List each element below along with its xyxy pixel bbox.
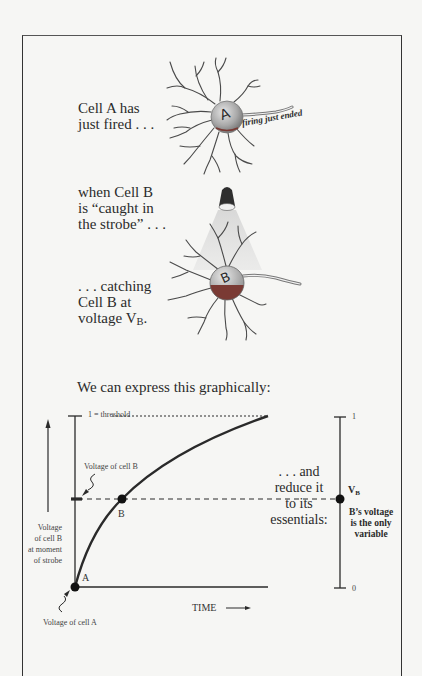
text-line: reduce it bbox=[268, 480, 330, 496]
text-line: to its bbox=[268, 496, 330, 512]
label-line: of cell B bbox=[22, 533, 62, 544]
voltage-curve bbox=[75, 416, 268, 587]
point-b bbox=[118, 495, 127, 504]
threshold-label: 1 = threshold bbox=[88, 410, 130, 419]
reduce-text: . . . and reduce it to its essentials: bbox=[268, 464, 330, 528]
caption-strobe: when Cell B is “caught in the strobe” . … bbox=[78, 184, 166, 232]
caption-line: voltage VB. bbox=[78, 310, 151, 330]
voltage-b-label: Voltage of cell B bbox=[84, 462, 138, 471]
caption-line: Cell A has bbox=[78, 100, 154, 116]
caption-text: voltage V bbox=[78, 310, 136, 326]
note-line: is the only bbox=[344, 518, 398, 529]
caption-line: Cell B at bbox=[78, 294, 151, 310]
time-label: TIME bbox=[192, 602, 216, 613]
voltage-a-label: Voltage of cell A bbox=[43, 618, 97, 627]
label-line: at moment bbox=[22, 544, 62, 555]
caption-line: the strobe” . . . bbox=[78, 216, 166, 232]
vb-label: VB bbox=[348, 484, 360, 497]
point-a bbox=[71, 583, 80, 592]
scale-top-label: 1 bbox=[352, 412, 356, 421]
label-line: Voltage bbox=[22, 522, 62, 533]
caption-cell-b: . . . catching Cell B at voltage VB. bbox=[78, 278, 151, 330]
caption-cell-a: Cell A has just fired . . . bbox=[78, 100, 154, 132]
point-a-label: A bbox=[82, 572, 89, 583]
caption-line: . . . catching bbox=[78, 278, 151, 294]
scale-bottom-label: 0 bbox=[352, 584, 356, 593]
scale-note: B’s voltage is the only variable bbox=[344, 507, 398, 540]
point-b-label: B bbox=[118, 508, 125, 519]
caption-line: is “caught in bbox=[78, 200, 166, 216]
caption-line: just fired . . . bbox=[78, 116, 154, 132]
y-axis-label: Voltage of cell B at moment of strobe bbox=[22, 522, 62, 566]
caption-line: when Cell B bbox=[78, 184, 166, 200]
caption-text: . bbox=[143, 310, 147, 326]
vb-marker bbox=[336, 495, 345, 504]
vb-sub: B bbox=[355, 489, 360, 497]
axon-b bbox=[243, 275, 300, 284]
note-line: variable bbox=[344, 529, 398, 540]
label-line: of strobe bbox=[22, 555, 62, 566]
graph-heading: We can express this graphically: bbox=[77, 379, 271, 396]
text-line: . . . and bbox=[268, 464, 330, 480]
text-line: essentials: bbox=[268, 512, 330, 528]
note-line: B’s voltage bbox=[344, 507, 398, 518]
